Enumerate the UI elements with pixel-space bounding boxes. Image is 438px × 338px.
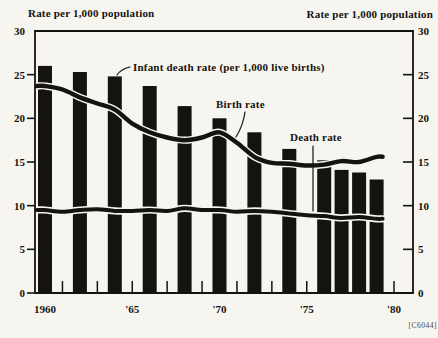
infant-death-rate-annotation: Infant death rate (per 1,000 live births…: [133, 61, 325, 74]
y-tick-label-left-15: 15: [14, 156, 26, 168]
death-rate-annotation: Death rate: [290, 131, 342, 143]
bar-1962: [73, 72, 87, 293]
x-label-1975: '75: [300, 303, 315, 315]
y-tick-label-left-30: 30: [14, 25, 26, 37]
figure-code: [C6044]: [409, 321, 438, 330]
x-label-1965: '65: [125, 303, 140, 315]
y-tick-label-left-25: 25: [14, 69, 26, 81]
y-tick-label-right-25: 25: [418, 69, 430, 81]
bar-1978: [352, 173, 366, 294]
y-tick-label-right-15: 15: [418, 156, 430, 168]
bar-1974: [282, 149, 296, 293]
bar-1979: [370, 180, 384, 294]
y-tick-label-right-20: 20: [418, 112, 430, 124]
bar-1960: [38, 66, 52, 293]
y-tick-label-right-0: 0: [418, 287, 424, 299]
y-tick-label-left-5: 5: [20, 243, 26, 255]
bar-1966: [143, 86, 157, 293]
birth-annotation-leader-line: [236, 112, 245, 137]
y-tick-label-left-20: 20: [14, 112, 26, 124]
bar-1976: [317, 160, 331, 293]
line-casing-0: [37, 86, 383, 166]
y-tick-label-left-10: 10: [14, 200, 26, 212]
scanned-vital-rates-chart: 0055101015152020252530301960'65'70'75'80…: [0, 0, 438, 338]
bar-1968: [178, 106, 192, 293]
infant-annotation-leader-line: [117, 67, 130, 75]
x-label-1980: '80: [387, 303, 402, 315]
y-tick-label-right-5: 5: [418, 243, 424, 255]
y-tick-label-left-0: 0: [20, 287, 26, 299]
x-label-1970: '70: [212, 303, 227, 315]
y-tick-label-right-30: 30: [418, 25, 430, 37]
x-label-1960: 1960: [34, 303, 57, 315]
infant-birth-death-rate-chart: 0055101015152020252530301960'65'70'75'80…: [0, 0, 438, 338]
bar-1977: [335, 170, 349, 293]
birth-rate-annotation: Birth rate: [216, 98, 265, 110]
y-tick-label-right-10: 10: [418, 200, 430, 212]
bar-1970: [213, 118, 227, 293]
y-axis-title-right: Rate per 1,000 population: [307, 8, 433, 20]
y-axis-title-left: Rate per 1,000 population: [28, 7, 154, 19]
